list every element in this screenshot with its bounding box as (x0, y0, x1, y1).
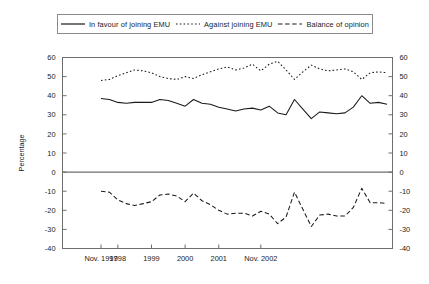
x-tick-label: 2000 (177, 254, 193, 263)
y-tick-label-left: -10 (45, 187, 56, 196)
series-line-0 (101, 96, 387, 119)
y-tick-label-left: 40 (47, 91, 55, 100)
y-tick-label-right: 30 (400, 110, 408, 119)
legend-label-in-favour: In favour of joining EMU (89, 20, 170, 29)
y-tick-label-left: 30 (47, 110, 55, 119)
legend-label-balance: Balance of opinion (306, 20, 369, 29)
y-tick-label-right: 60 (400, 53, 408, 62)
y-tick-label-left: -40 (45, 244, 56, 253)
x-tick-label: Nov. 2002 (244, 254, 277, 263)
legend-item-against: Against joining EMU (176, 20, 272, 29)
y-tick-label-right: -10 (400, 187, 411, 196)
x-tick-label: 1998 (110, 254, 126, 263)
line-dashed-icon (278, 21, 302, 27)
legend-item-balance: Balance of opinion (278, 20, 369, 29)
series-line-1 (101, 61, 387, 80)
series-line-2 (101, 188, 387, 226)
emu-opinion-chart: In favour of joining EMU Against joining… (0, 0, 429, 284)
plot-frame (63, 58, 393, 249)
y-tick-label-left: 60 (47, 53, 55, 62)
legend-label-against: Against joining EMU (204, 20, 272, 29)
y-tick-label-right: 50 (400, 72, 408, 81)
y-axis-title: Percentage (17, 135, 26, 172)
line-dotted-icon (176, 21, 200, 27)
y-tick-label-left: 20 (47, 130, 55, 139)
chart-legend: In favour of joining EMU Against joining… (57, 14, 373, 34)
y-tick-label-right: -20 (400, 206, 411, 215)
x-tick-label: 1999 (143, 254, 159, 263)
y-tick-label-left: 10 (47, 149, 55, 158)
y-tick-label-right: -30 (400, 225, 411, 234)
chart-plot-area: 60605050404030302020101000-10-10-20-20-3… (0, 0, 429, 284)
y-tick-label-right: 40 (400, 91, 408, 100)
y-tick-label-right: 20 (400, 130, 408, 139)
y-tick-label-right: 10 (400, 149, 408, 158)
y-tick-label-right: -40 (400, 244, 411, 253)
line-solid-icon (61, 21, 85, 27)
legend-item-in-favour: In favour of joining EMU (61, 20, 170, 29)
x-tick-label: 2001 (211, 254, 227, 263)
y-tick-label-left: 50 (47, 72, 55, 81)
y-tick-label-left: 0 (51, 168, 55, 177)
y-tick-label-left: -20 (45, 206, 56, 215)
y-tick-label-left: -30 (45, 225, 56, 234)
y-tick-label-right: 0 (400, 168, 404, 177)
